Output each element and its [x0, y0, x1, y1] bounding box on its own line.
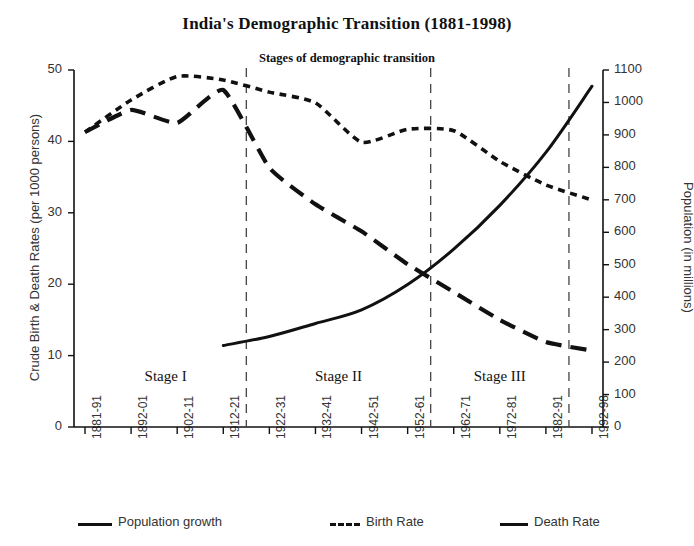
legend-swatch-dashed — [500, 523, 528, 526]
series-line-death-rate — [85, 90, 592, 351]
series-line-population-growth — [223, 86, 592, 345]
legend-label-population-growth: Population growth — [118, 514, 222, 529]
legend-swatch-dotted — [330, 523, 360, 526]
legend-label-birth-rate: Birth Rate — [366, 514, 424, 529]
chart-legend: Population growthBirth RateDeath Rate — [0, 512, 694, 538]
series-line-birth-rate — [85, 76, 592, 200]
plot-area — [0, 0, 694, 546]
data-series — [85, 76, 592, 351]
stage-dividers — [246, 68, 569, 427]
chart-figure: India's Demographic Transition (1881-199… — [0, 0, 694, 546]
legend-label-death-rate: Death Rate — [534, 514, 600, 529]
legend-swatch-solid — [78, 523, 112, 526]
